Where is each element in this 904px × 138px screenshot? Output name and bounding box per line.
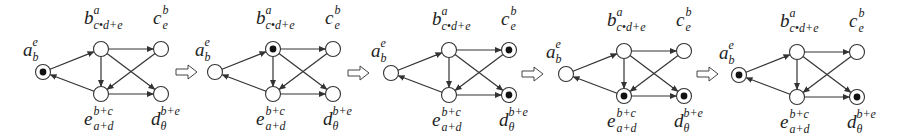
svg-text:c: c: [849, 10, 858, 31]
node-label-c: cbe: [676, 5, 692, 34]
node-label-a: aeb: [371, 36, 387, 65]
place-node-a: [559, 67, 574, 82]
diagram-canvas: aebbac•d+ecbeeb+ca+ddb+eθaebbac•d+ecbeeb…: [0, 0, 904, 138]
svg-text:a+d: a+d: [617, 121, 638, 135]
svg-text:b+c: b+c: [442, 105, 462, 119]
place-node-e: [790, 90, 805, 105]
svg-text:a: a: [23, 39, 33, 60]
svg-text:b: b: [205, 50, 211, 64]
place-node-c: [677, 44, 692, 59]
panel-5: aebbac•d+ecbeeb+ca+ddb+eθ: [719, 6, 877, 136]
place-node-d: [326, 87, 341, 102]
node-label-b: bac•d+e: [256, 3, 295, 32]
svg-text:b: b: [381, 51, 387, 65]
svg-text:e: e: [205, 35, 211, 49]
svg-text:e: e: [780, 111, 788, 132]
svg-text:e: e: [607, 110, 615, 131]
node-label-b: bac•d+e: [84, 3, 123, 32]
svg-text:b: b: [556, 52, 562, 66]
svg-text:a: a: [546, 41, 556, 62]
svg-text:b: b: [780, 10, 790, 31]
place-node-a: [208, 65, 223, 80]
token-dot-icon: [40, 69, 47, 76]
place-node-c: [326, 42, 341, 57]
svg-text:d: d: [323, 108, 333, 129]
node-label-c: cbe: [153, 3, 169, 32]
svg-text:a: a: [266, 3, 272, 17]
svg-text:c: c: [676, 9, 685, 30]
svg-text:b+e: b+e: [161, 104, 181, 118]
svg-text:b+c: b+c: [790, 107, 810, 121]
place-node-b: [94, 42, 109, 57]
edge-e-to-a: [399, 76, 443, 93]
node-label-d: db+eθ: [847, 107, 877, 136]
edge-e-to-a: [574, 77, 618, 94]
node-label-e: eb+ca+d: [607, 106, 638, 135]
place-node-a-marked: [732, 68, 747, 83]
node-label-d: db+eθ: [674, 106, 704, 135]
place-node-b: [790, 45, 805, 60]
svg-text:b: b: [256, 7, 266, 28]
panel-1: aebbac•d+ecbeeb+ca+ddb+eθ: [23, 3, 181, 133]
svg-text:e: e: [33, 35, 39, 49]
token-dot-icon: [736, 72, 743, 79]
svg-text:b+e: b+e: [509, 105, 529, 119]
svg-text:b: b: [729, 53, 735, 67]
step-arrow-icon-4: [697, 67, 718, 81]
svg-text:d: d: [847, 111, 857, 132]
svg-text:θ: θ: [161, 119, 167, 133]
svg-text:a+d: a+d: [790, 122, 811, 136]
svg-text:a: a: [371, 40, 381, 61]
edge-a-to-b: [398, 53, 442, 70]
place-node-b: [442, 43, 457, 58]
svg-text:a+d: a+d: [266, 119, 287, 133]
svg-text:a: a: [195, 39, 205, 60]
svg-text:b+e: b+e: [857, 107, 877, 121]
token-dot-icon: [681, 93, 688, 100]
place-node-e: [442, 88, 457, 103]
svg-text:b+c: b+c: [266, 104, 286, 118]
token-dot-icon: [506, 92, 513, 99]
panel-4: aebbac•d+ecbeeb+ca+ddb+eθ: [546, 5, 704, 135]
node-label-c: cbe: [325, 3, 341, 32]
svg-text:c•d+e: c•d+e: [442, 19, 472, 33]
svg-text:a: a: [790, 6, 796, 20]
place-node-c: [154, 42, 169, 57]
svg-text:θ: θ: [857, 122, 863, 136]
svg-text:b+e: b+e: [333, 104, 353, 118]
svg-text:a: a: [94, 3, 100, 17]
token-dot-icon: [854, 94, 861, 101]
svg-text:a: a: [719, 42, 729, 63]
node-label-e: eb+ca+d: [256, 104, 287, 133]
svg-text:a: a: [617, 5, 623, 19]
svg-text:b: b: [859, 6, 865, 20]
node-label-e: eb+ca+d: [84, 104, 115, 133]
place-node-e: [266, 87, 281, 102]
svg-text:c•d+e: c•d+e: [266, 18, 296, 32]
svg-text:e: e: [432, 109, 440, 130]
node-label-b: bac•d+e: [780, 6, 819, 35]
place-node-d-marked: [850, 90, 865, 105]
svg-text:b+c: b+c: [617, 106, 637, 120]
place-node-c: [850, 45, 865, 60]
svg-text:a+d: a+d: [442, 120, 463, 134]
svg-text:e: e: [729, 38, 735, 52]
panel-3: aebbac•d+ecbeeb+ca+ddb+eθ: [371, 4, 529, 134]
step-arrow-icon-1: [176, 65, 197, 79]
place-node-e-marked: [617, 89, 632, 104]
svg-text:e: e: [256, 108, 264, 129]
svg-text:b: b: [511, 4, 517, 18]
svg-text:θ: θ: [684, 121, 690, 135]
edge-e-to-a: [223, 75, 267, 92]
svg-text:e: e: [859, 21, 865, 35]
svg-text:c: c: [501, 8, 510, 29]
svg-text:d: d: [674, 110, 684, 131]
svg-text:e: e: [335, 18, 341, 32]
svg-text:b: b: [33, 50, 39, 64]
edge-e-to-a: [51, 75, 95, 92]
node-label-d: db+eθ: [323, 104, 353, 133]
svg-text:a+d: a+d: [94, 119, 115, 133]
svg-text:b: b: [432, 8, 442, 29]
place-node-b-marked: [266, 42, 281, 57]
svg-text:e: e: [381, 36, 387, 50]
